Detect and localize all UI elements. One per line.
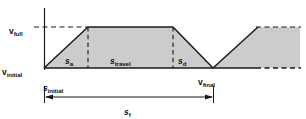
label-s-a: sa xyxy=(65,51,73,67)
label-s-initial-sub: initial xyxy=(48,87,63,94)
label-s-travel: stravel xyxy=(110,51,131,67)
label-s-travel-sub: travel xyxy=(115,60,131,67)
label-s-f: sf xyxy=(124,102,131,118)
label-s-f-base: s xyxy=(124,107,129,117)
label-v-final: vfinal xyxy=(198,72,215,88)
label-v-initial-sub: initial xyxy=(7,71,22,78)
label-s-d-sub: d xyxy=(183,60,187,67)
label-v-initial-base: v xyxy=(2,67,7,77)
label-v-final-base: v xyxy=(198,77,203,87)
label-v-full-base: v xyxy=(9,26,14,36)
dimension-arrowhead-left xyxy=(45,94,53,99)
label-s-initial: sinitial xyxy=(43,78,63,94)
label-s-initial-base: s xyxy=(43,83,48,93)
label-v-final-sub: final xyxy=(203,81,215,88)
velocity-profile-figure: vfull vinitial vfinal sinitial sa strave… xyxy=(0,0,306,119)
label-s-d-base: s xyxy=(178,56,183,66)
label-v-full-sub: full xyxy=(14,30,23,37)
label-v-full: vfull xyxy=(9,21,23,37)
label-s-f-sub: f xyxy=(129,111,131,118)
label-v-initial: vinitial xyxy=(2,62,22,78)
label-s-travel-base: s xyxy=(110,56,115,66)
second-cycle-shaded-area xyxy=(213,27,300,68)
label-s-a-sub: a xyxy=(70,60,73,67)
label-s-d: sd xyxy=(178,51,186,67)
dimension-arrowhead-right xyxy=(205,94,213,99)
label-s-a-base: s xyxy=(65,56,70,66)
profile-plot xyxy=(0,0,306,119)
